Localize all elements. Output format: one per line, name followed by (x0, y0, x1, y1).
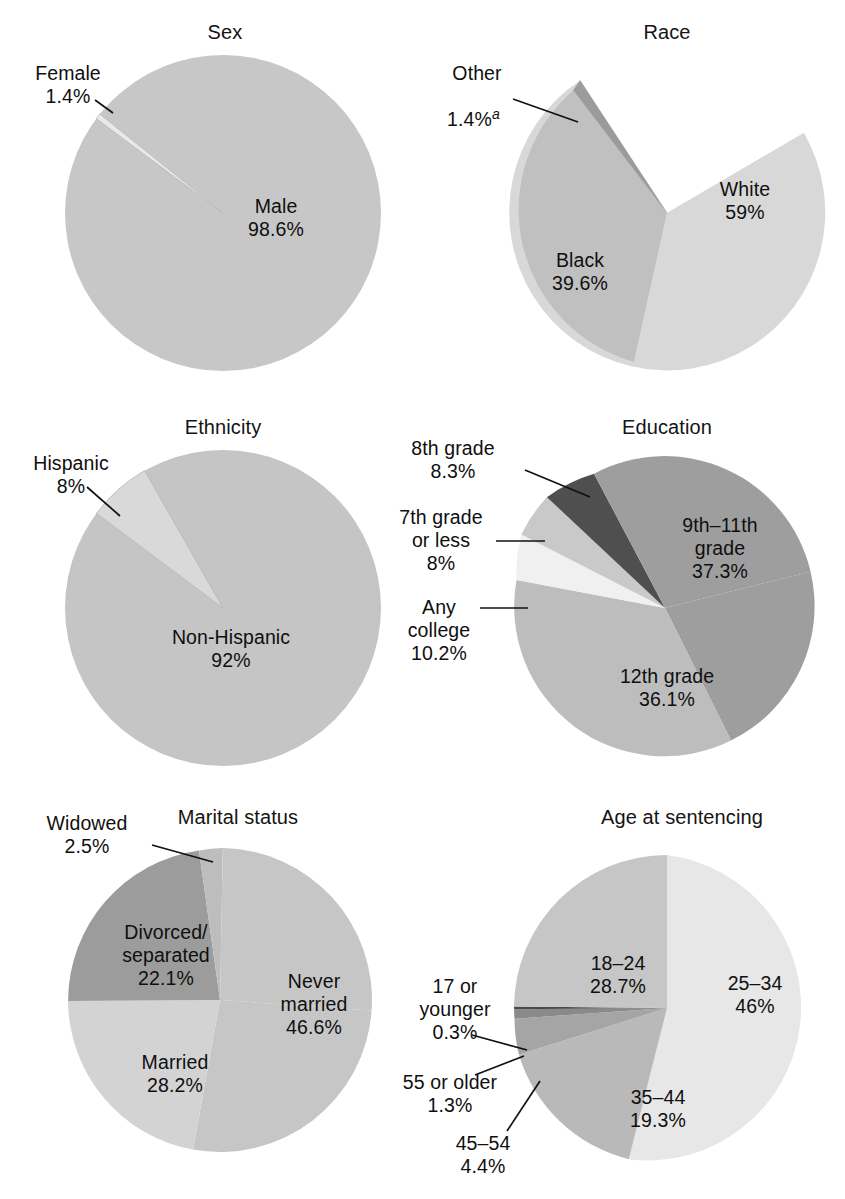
slice-other (573, 81, 667, 213)
panel-title-education: Education (592, 416, 742, 438)
college-label: Any college 10.2% (389, 596, 489, 665)
slice-8th (547, 474, 665, 608)
hispanic-label: Hispanic 8% (6, 452, 136, 498)
other-label: Other (427, 62, 527, 85)
panel-title-ethnicity: Ethnicity (148, 416, 298, 438)
grade7-label: 7th grade or less 8% (381, 506, 501, 575)
married-label: Married 28.2% (105, 1051, 245, 1097)
slice-college (516, 534, 665, 608)
white-label: White 59% (690, 178, 800, 224)
other-value-text: 1.4% (447, 108, 492, 130)
footnote-marker-a: a (492, 106, 500, 122)
slice-black-main2 (634, 133, 822, 365)
leader-8th-grade (525, 470, 590, 497)
age4554-label: 45–54 4.4% (428, 1132, 538, 1178)
grade12-label: 12th grade 36.1% (592, 665, 742, 711)
grade9to11-label: 9th–11th grade 37.3% (655, 514, 785, 583)
slice-black-main (519, 90, 667, 362)
age2534-label: 25–34 46% (700, 972, 810, 1018)
slice-9-11 (665, 572, 815, 741)
slice-7-or-less (521, 497, 665, 608)
age3544-label: 35–44 19.3% (598, 1086, 718, 1132)
leader-widowed (152, 845, 213, 862)
female-label: Female 1.4% (8, 62, 128, 108)
age55-label: 55 or older 1.3% (370, 1071, 530, 1117)
never-married-label: Never married 46.6% (249, 970, 379, 1039)
divorced-label: Divorced/ separated 22.1% (86, 921, 246, 990)
slice-55-older (514, 1008, 667, 1019)
other-value: 1.4%a (436, 85, 536, 131)
panel-title-age: Age at sentencing (567, 806, 797, 828)
panel-title-marital: Marital status (143, 806, 333, 828)
slice-white (509, 81, 825, 371)
non-hispanic-label: Non-Hispanic 92% (136, 626, 326, 672)
grade8-label: 8th grade 8.3% (388, 437, 518, 483)
panel-title-race: Race (592, 21, 742, 43)
slice-black (573, 81, 667, 213)
slice-female (96, 114, 223, 213)
slice-35-44 (519, 1008, 667, 1159)
age1824-label: 18–24 28.7% (563, 952, 673, 998)
age17-label: 17 or younger 0.3% (385, 975, 525, 1044)
black-label: Black 39.6% (520, 249, 640, 295)
slice-17-younger (514, 1006, 667, 1009)
slice-45-54 (515, 1008, 668, 1055)
panel-title-sex: Sex (150, 21, 300, 43)
pie-education (480, 456, 815, 756)
widowed-label: Widowed 2.5% (22, 812, 152, 858)
male-label: Male 98.6% (216, 195, 336, 241)
